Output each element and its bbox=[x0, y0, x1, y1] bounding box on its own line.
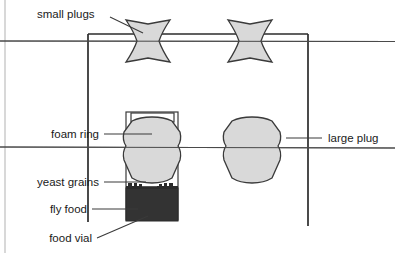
label-yeast-grains: yeast grains bbox=[37, 176, 99, 188]
leader-food-vial bbox=[97, 216, 148, 238]
large-plug-right bbox=[223, 117, 280, 183]
fly-food-block bbox=[126, 188, 178, 221]
large-plug-left bbox=[123, 117, 180, 183]
label-foam-ring: foam ring bbox=[51, 128, 99, 140]
label-small-plugs: small plugs bbox=[37, 8, 95, 20]
label-fly-food: fly food bbox=[50, 203, 87, 215]
label-food-vial: food vial bbox=[49, 232, 92, 244]
shelf-line-top-overlay bbox=[0, 41, 395, 42]
yeast-grains bbox=[126, 183, 178, 189]
diagram-canvas: small plugs foam ring yeast grains fly f… bbox=[0, 0, 395, 253]
shelf-line-bottom-overlay bbox=[0, 147, 395, 148]
diagram-svg: small plugs foam ring yeast grains fly f… bbox=[0, 0, 395, 253]
label-large-plug: large plug bbox=[328, 132, 379, 144]
